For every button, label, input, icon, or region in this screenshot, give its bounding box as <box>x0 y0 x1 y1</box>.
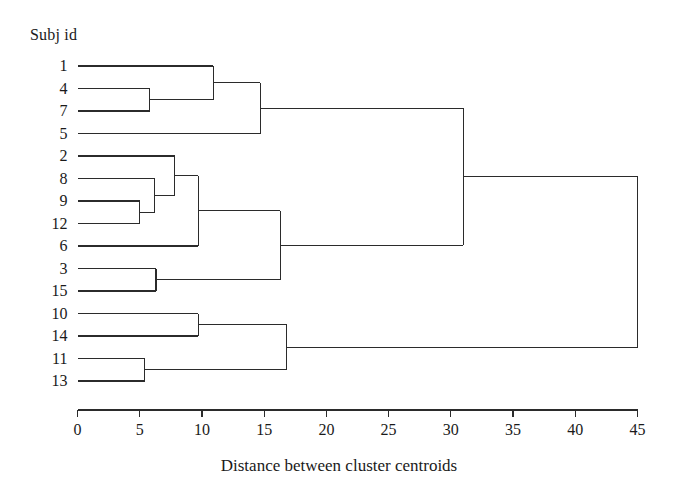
leaf-label: 9 <box>26 192 68 210</box>
x-tick-label: 5 <box>120 421 160 439</box>
x-tick-label: 40 <box>555 421 595 439</box>
leaf-label: 14 <box>26 327 68 345</box>
x-tick-label: 30 <box>431 421 471 439</box>
leaf-label: 6 <box>26 237 68 255</box>
dendrogram-links <box>78 66 638 381</box>
x-tick-label: 20 <box>306 421 346 439</box>
x-tick-label: 35 <box>493 421 533 439</box>
leaf-label: 5 <box>26 125 68 143</box>
x-tick-label: 0 <box>58 421 98 439</box>
leaf-label: 8 <box>26 170 68 188</box>
leaf-label: 2 <box>26 147 68 165</box>
leaf-label: 3 <box>26 260 68 278</box>
leaf-label: 13 <box>26 372 68 390</box>
x-tick-label: 15 <box>244 421 284 439</box>
x-axis <box>78 410 638 417</box>
dendrogram-figure: Subj id 147528912631510141113 0510152025… <box>0 0 678 493</box>
leaf-label: 12 <box>26 215 68 233</box>
leaf-label: 1 <box>26 57 68 75</box>
dendrogram-canvas <box>0 0 678 493</box>
leaf-label: 4 <box>26 80 68 98</box>
leaf-label: 10 <box>26 305 68 323</box>
x-tick-label: 10 <box>182 421 222 439</box>
x-tick-label: 45 <box>618 421 658 439</box>
leaf-label: 11 <box>26 350 68 368</box>
leaf-label: 15 <box>26 282 68 300</box>
leaf-label: 7 <box>26 102 68 120</box>
x-tick-label: 25 <box>369 421 409 439</box>
x-axis-title: Distance between cluster centroids <box>0 456 678 476</box>
